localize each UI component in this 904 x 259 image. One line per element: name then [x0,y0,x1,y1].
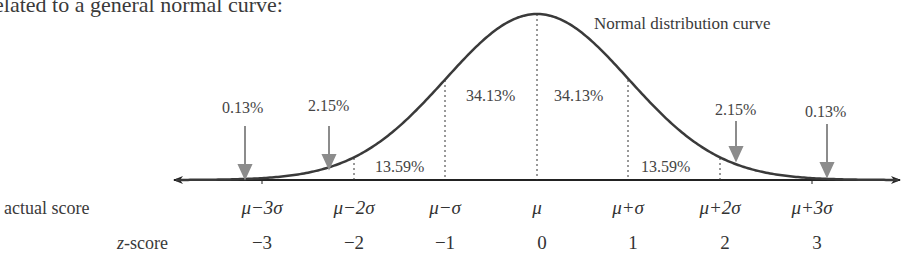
svg-text:μ+3σ: μ+3σ [790,197,833,218]
pct-left-tail: 0.13% [222,99,263,116]
pct-left-1: 13.59% [375,158,424,175]
sigma-divider-lines [354,14,720,180]
svg-text:2: 2 [720,232,730,253]
pct-right-1: 13.59% [641,158,690,175]
svg-text:μ: μ [531,197,542,218]
row-label-actual-score: actual score [4,198,89,218]
normal-distribution-diagram: 0.13% 2.15% 13.59% 34.13% 34.13% 13.59% … [0,0,904,259]
svg-text:−2: −2 [344,232,364,253]
row-label-z-score: z-score [116,233,168,253]
pct-left-center: 34.13% [466,87,515,104]
svg-text:μ−2σ: μ−2σ [332,197,375,218]
pct-right-tail: 0.13% [805,103,846,120]
svg-text:μ+σ: μ+σ [611,197,644,218]
svg-text:1: 1 [628,232,638,253]
svg-text:μ−σ: μ−σ [428,197,461,218]
tail-arrows [239,121,833,178]
svg-text:3: 3 [812,232,822,253]
pct-left-2: 2.15% [308,97,349,114]
svg-text:μ−3σ: μ−3σ [240,197,283,218]
actual-score-labels: μ−3σ μ−2σ μ−σ μ μ+σ μ+2σ μ+3σ [240,197,833,218]
svg-text:−3: −3 [252,232,272,253]
curve-title: Normal distribution curve [594,14,771,33]
svg-text:0: 0 [537,232,547,253]
z-score-labels: −3 −2 −1 0 1 2 3 [252,232,822,253]
pct-right-2: 2.15% [715,101,756,118]
svg-text:−1: −1 [435,232,455,253]
pct-right-center: 34.13% [554,87,603,104]
svg-text:μ+2σ: μ+2σ [698,197,741,218]
